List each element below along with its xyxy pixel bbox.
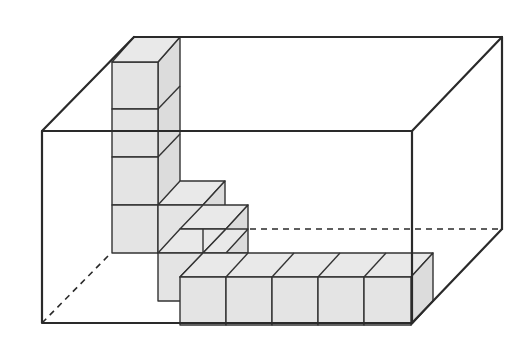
- diagram-canvas: isometric-oblique box with unit cubes: [0, 0, 529, 343]
- box-with-cubes-diagram: [0, 0, 529, 343]
- front-cube-row: [180, 253, 433, 325]
